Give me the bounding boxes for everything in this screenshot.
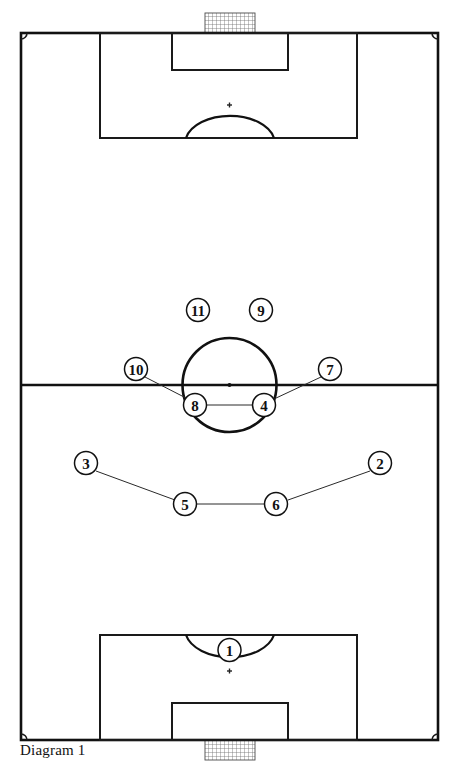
player-marker-10[interactable]: 10 — [125, 358, 148, 381]
connector-3-to-5 — [96, 471, 175, 500]
goal-box-bottom — [172, 703, 288, 740]
player-connector-lines — [96, 377, 370, 504]
formation-diagram: 1234567891011 Diagram 1 — [0, 0, 460, 775]
player-marker-5[interactable]: 5 — [174, 493, 197, 516]
player-marker-7[interactable]: 7 — [319, 358, 342, 381]
player-marker-6[interactable]: 6 — [265, 493, 288, 516]
penalty-arc-top — [186, 116, 274, 138]
bottom-goal-net-group — [205, 740, 255, 760]
penalty-spot-top — [227, 103, 232, 108]
connector-4-to-7 — [274, 377, 321, 399]
player-number-5: 5 — [181, 497, 189, 513]
penalty-box-top — [100, 33, 357, 138]
connector-10-to-8 — [145, 377, 186, 398]
player-number-3: 3 — [82, 456, 90, 472]
connector-6-to-2 — [288, 471, 370, 500]
player-number-11: 11 — [191, 303, 205, 319]
player-number-8: 8 — [191, 398, 199, 414]
player-number-6: 6 — [272, 497, 280, 513]
player-number-7: 7 — [326, 362, 334, 378]
penalty-spot-bottom — [227, 669, 232, 674]
player-number-9: 9 — [257, 303, 265, 319]
player-marker-4[interactable]: 4 — [253, 394, 276, 417]
diagram-caption: Diagram 1 — [20, 742, 86, 759]
player-marker-1[interactable]: 1 — [218, 639, 241, 662]
player-number-4: 4 — [260, 398, 268, 414]
player-marker-8[interactable]: 8 — [184, 394, 207, 417]
pitch-svg: 1234567891011 — [0, 0, 460, 775]
player-number-10: 10 — [129, 362, 144, 378]
player-marker-9[interactable]: 9 — [250, 299, 273, 322]
player-marker-3[interactable]: 3 — [75, 452, 98, 475]
goal-net-bottom — [205, 740, 255, 760]
player-number-2: 2 — [376, 456, 384, 472]
player-number-1: 1 — [226, 643, 234, 659]
goal-net-top — [205, 13, 255, 33]
goal-box-top — [172, 33, 288, 70]
center-spot — [228, 383, 232, 387]
player-marker-11[interactable]: 11 — [187, 299, 210, 322]
player-marker-2[interactable]: 2 — [369, 452, 392, 475]
top-goal-net-group — [205, 13, 255, 33]
